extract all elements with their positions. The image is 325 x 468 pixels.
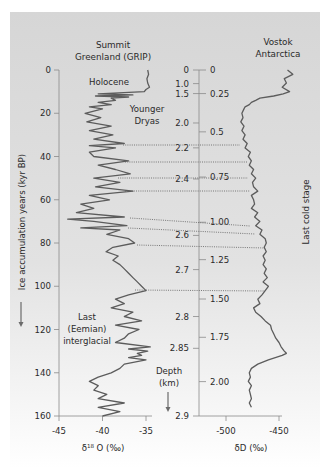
vostok-depth-label: 1.25 [210, 255, 229, 265]
age-tick-label: 0 [46, 65, 51, 75]
vostok-x-tick-label: -450 [269, 426, 289, 436]
grip-depth-label: 2.0 [175, 118, 189, 128]
age-axis-title-text: Ice accumulation years (kyr BP) [17, 154, 27, 290]
eemian-label-2: (Eemian) [68, 324, 107, 334]
eemian-label-3: interglacial [63, 336, 111, 346]
grip-x-tick-label: -35 [139, 426, 153, 436]
younger-dryas-label-1: Younger [129, 104, 165, 114]
holocene-label: Holocene [89, 77, 129, 87]
younger-dryas-label-2: Dryas [135, 116, 161, 126]
vostok-depth-label: 1.00 [210, 217, 229, 227]
age-tick-label: 140 [35, 368, 51, 378]
vostok-x-tick-label: -500 [216, 426, 236, 436]
vostok-depth-label: 1.75 [210, 332, 229, 342]
age-tick-label: 80 [40, 238, 51, 248]
grip-title-line-2: Greenland (GRIP) [75, 52, 151, 62]
grip-depth-label: 2.4 [175, 174, 189, 184]
last-cold-stage-label: Last cold stage [301, 179, 311, 244]
vostok-x-axis-title: δD (‰) [235, 443, 268, 453]
vostok-depth-label: 0.5 [210, 127, 224, 137]
last-cold-stage-text: Last cold stage [301, 179, 311, 244]
grip-depth-label: 2.6 [175, 230, 189, 240]
grip-depth-label: 2.7 [175, 265, 189, 275]
grip-depth-label: 1.5 [175, 89, 189, 99]
grip-depth-label: 1.0 [175, 79, 189, 89]
grip-x-tick-label: -40 [95, 426, 109, 436]
eemian-label-1: Last [78, 312, 97, 322]
chart-background [10, 12, 320, 468]
vostok-depth-label: 0.25 [210, 89, 229, 99]
depth-title-2: (km) [159, 378, 179, 388]
depth-title-1: Depth [156, 366, 182, 376]
age-axis-title: Ice accumulation years (kyr BP) [17, 154, 27, 290]
grip-depth-label: 0 [184, 65, 189, 75]
grip-depth-label: 2.8 [175, 312, 189, 322]
grip-title-line-1: Summit [96, 40, 131, 50]
grip-depth-label: 2.2 [175, 143, 189, 153]
age-tick-label: 100 [35, 281, 51, 291]
age-tick-label: 20 [40, 108, 51, 118]
grip-depth-label: 2.9 [175, 411, 189, 421]
vostok-title-line-1: Vostok [263, 37, 293, 47]
vostok-title-line-2: Antarctica [256, 49, 301, 59]
ice-core-chart: Summit Greenland (GRIP) Vostok Antarctic… [0, 0, 325, 468]
vostok-depth-label: 0 [210, 65, 215, 75]
age-tick-label: 40 [40, 152, 51, 162]
vostok-depth-label: 0.75 [210, 172, 229, 182]
vostok-depth-label: 2.00 [210, 377, 229, 387]
age-tick-label: 160 [35, 411, 51, 421]
grip-depth-label: 2.85 [170, 343, 189, 353]
grip-x-tick-label: -45 [52, 426, 66, 436]
vostok-depth-label: 1.50 [210, 294, 229, 304]
age-tick-label: 60 [40, 195, 51, 205]
age-tick-label: 120 [35, 325, 51, 335]
